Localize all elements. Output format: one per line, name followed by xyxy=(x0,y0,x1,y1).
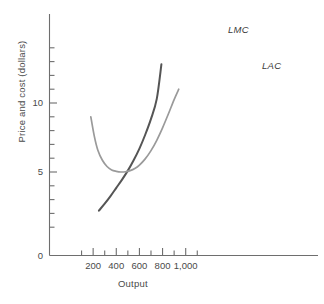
curve-lmc xyxy=(99,64,161,210)
x-axis-ticks xyxy=(82,248,198,256)
x-axis-title: Output xyxy=(118,278,148,289)
x-tick-label: 1,000 xyxy=(166,260,206,271)
y-axis-ticks xyxy=(50,48,58,227)
curves-group xyxy=(91,64,179,210)
curve-label-lac: LAC xyxy=(262,60,281,71)
y-axis-title: Price and cost (dollars) xyxy=(16,29,27,155)
y-tick-label: 5 xyxy=(14,166,43,177)
origin-tick-label: 0 xyxy=(21,250,61,261)
y-tick-label: 10 xyxy=(14,97,43,108)
curve-label-lmc: LMC xyxy=(228,24,249,35)
chart-figure: Price and cost (dollars) Output 02004006… xyxy=(0,0,324,304)
axis-group xyxy=(50,14,319,256)
